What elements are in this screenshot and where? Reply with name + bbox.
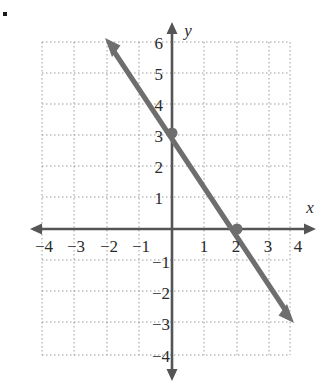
y-axis-label: y <box>182 21 192 40</box>
x-axis-arrow-right <box>304 224 316 235</box>
y-tick-3: 3 <box>155 127 164 146</box>
x-tick--1: −1 <box>132 237 150 256</box>
x-tick--3: −3 <box>67 237 85 256</box>
y-axis-arrow-down <box>167 369 178 381</box>
y-axis-arrow-up <box>167 22 178 34</box>
coordinate-plane-figure: x y −4 −3 −2 −1 1 2 3 4 6 5 4 3 2 1 −1 −… <box>0 0 329 388</box>
y-tick-5: 5 <box>155 65 164 84</box>
x-tick--4: −4 <box>35 237 54 256</box>
x-tick--2: −2 <box>100 237 118 256</box>
x-tick-4: 4 <box>294 237 303 256</box>
y-tick--1: −1 <box>152 253 170 272</box>
plotted-line-group <box>105 38 294 323</box>
plotted-line <box>113 50 286 311</box>
y-tick--4: −4 <box>152 347 171 366</box>
bullet-mark <box>3 12 7 16</box>
graph-canvas: x y −4 −3 −2 −1 1 2 3 4 6 5 4 3 2 1 −1 −… <box>0 0 329 388</box>
y-tick-4: 4 <box>155 96 164 115</box>
y-tick--2: −2 <box>152 284 170 303</box>
y-tick-6: 6 <box>155 34 164 53</box>
x-tick-2: 2 <box>232 237 241 256</box>
y-tick-1: 1 <box>155 189 164 208</box>
y-tick--3: −3 <box>152 315 170 334</box>
point-x-intercept <box>232 224 243 235</box>
axes <box>30 22 316 381</box>
x-axis-label: x <box>305 198 314 217</box>
y-tick-2: 2 <box>155 158 164 177</box>
x-tick-3: 3 <box>264 237 273 256</box>
point-y-intercept <box>167 128 178 139</box>
x-axis-arrow-left <box>30 224 42 235</box>
grid-lines <box>42 42 290 355</box>
y-tick-labels: 6 5 4 3 2 1 −1 −2 −3 −4 <box>152 34 171 366</box>
x-tick-1: 1 <box>200 237 209 256</box>
